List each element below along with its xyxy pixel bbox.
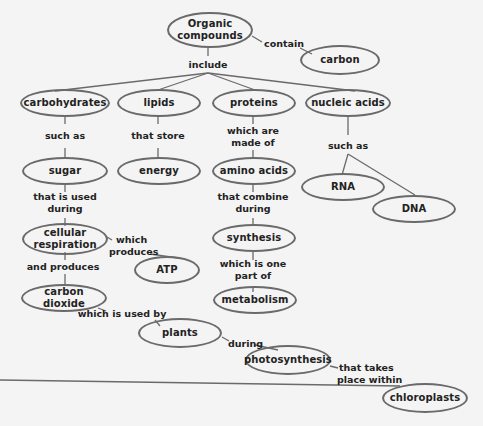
link-that-is-used-during: that is used during (33, 191, 96, 215)
node-nucleic-acids-label: nucleic acids (311, 97, 385, 109)
node-carbon[interactable]: carbon (300, 45, 380, 75)
link-which-produces-line1: which (109, 234, 158, 246)
node-energy-label: energy (139, 165, 179, 177)
node-cellular-respiration-line1: cellular (44, 227, 87, 239)
link-that-takes-place-within: that takes place within (337, 362, 402, 386)
link-that-combine-during-line1: that combine (218, 191, 289, 203)
link-that-is-used-during-line2: during (33, 203, 96, 215)
link-and-produces: and produces (27, 261, 100, 273)
link-that-takes-place-within-line2: place within (337, 374, 402, 386)
node-carbohydrates-label: carbohydrates (24, 97, 107, 109)
node-photosynthesis[interactable]: photosynthesis (245, 345, 331, 375)
link-which-is-used-by: which is used by (78, 308, 167, 320)
link-which-are-made-of-line1: which are (227, 125, 279, 137)
link-include: include (189, 59, 228, 71)
node-amino-acids-label: amino acids (220, 165, 288, 177)
node-lipids-label: lipids (143, 97, 174, 109)
link-which-are-made-of-line2: made of (227, 137, 279, 149)
node-carbohydrates[interactable]: carbohydrates (20, 89, 110, 117)
node-metabolism-label: metabolism (222, 294, 289, 306)
link-that-combine-during-line2: during (218, 203, 289, 215)
link-which-is-one-part-of-line2: part of (220, 270, 286, 282)
node-plants[interactable]: plants (138, 318, 222, 348)
node-rna[interactable]: RNA (301, 173, 385, 201)
node-sugar-label: sugar (49, 165, 81, 177)
node-chloroplasts-label: chloroplasts (390, 392, 460, 404)
node-dna[interactable]: DNA (372, 195, 456, 223)
node-proteins-label: proteins (230, 97, 278, 109)
node-metabolism[interactable]: metabolism (213, 286, 297, 314)
node-synthesis[interactable]: synthesis (212, 224, 296, 252)
node-atp[interactable]: ATP (134, 256, 200, 284)
node-energy[interactable]: energy (117, 157, 201, 185)
link-which-produces: which produces (109, 234, 158, 258)
node-plants-label: plants (162, 327, 198, 339)
node-chloroplasts[interactable]: chloroplasts (382, 383, 468, 413)
link-such-as-carbohydrates: such as (45, 130, 85, 142)
node-cellular-respiration[interactable]: cellular respiration (22, 223, 108, 255)
link-that-store: that store (131, 130, 184, 142)
node-organic-compounds[interactable]: Organic compounds (167, 12, 253, 48)
node-nucleic-acids[interactable]: nucleic acids (305, 89, 391, 117)
node-proteins[interactable]: proteins (212, 89, 296, 117)
node-sugar[interactable]: sugar (22, 157, 108, 185)
link-such-as-nucleic: such as (328, 140, 368, 152)
link-that-takes-place-within-line1: that takes (337, 362, 402, 374)
link-that-combine-during: that combine during (218, 191, 289, 215)
node-carbon-label: carbon (320, 54, 359, 66)
node-synthesis-label: synthesis (227, 232, 282, 244)
node-organic-line2: compounds (177, 30, 243, 42)
link-that-is-used-during-line1: that is used (33, 191, 96, 203)
node-lipids[interactable]: lipids (117, 89, 201, 117)
link-which-is-one-part-of-line1: which is one (220, 258, 286, 270)
node-amino-acids[interactable]: amino acids (212, 157, 296, 185)
link-which-produces-line2: produces (109, 246, 158, 258)
link-which-is-one-part-of: which is one part of (220, 258, 286, 282)
node-rna-label: RNA (331, 181, 355, 193)
node-atp-label: ATP (156, 264, 177, 276)
node-photosynthesis-label: photosynthesis (244, 354, 332, 366)
node-organic-line1: Organic (188, 18, 233, 30)
node-cellular-respiration-line2: respiration (33, 239, 96, 251)
node-carbon-dioxide-label: carbon dioxide (23, 286, 105, 310)
link-which-are-made-of: which are made of (227, 125, 279, 149)
link-contain: contain (264, 38, 304, 50)
node-dna-label: DNA (402, 203, 427, 215)
